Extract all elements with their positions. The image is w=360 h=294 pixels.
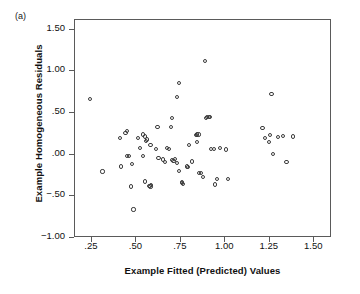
x-tick-mark <box>91 237 92 242</box>
x-tick-mark <box>135 237 136 242</box>
y-tick-mark <box>69 112 74 113</box>
x-tick-mark <box>313 237 314 242</box>
data-point <box>215 177 219 181</box>
panel-label: (a) <box>15 11 26 21</box>
y-tick-label: −.50 <box>5 188 65 199</box>
data-point <box>177 169 181 173</box>
data-point <box>224 147 228 151</box>
data-point <box>156 156 160 160</box>
data-point <box>269 92 273 96</box>
data-point <box>143 179 147 183</box>
x-axis-title: Example Fitted (Predicted) Values <box>74 265 331 276</box>
data-point <box>226 177 230 181</box>
data-point <box>148 143 152 147</box>
data-point <box>170 116 174 120</box>
data-point <box>196 132 200 136</box>
x-tick-mark <box>180 237 181 242</box>
data-point <box>136 136 140 140</box>
x-tick-mark <box>269 237 270 242</box>
data-point <box>260 126 264 130</box>
data-point <box>281 134 285 138</box>
data-point <box>145 137 149 141</box>
y-tick-label: .00 <box>5 147 65 158</box>
data-point <box>276 135 280 139</box>
y-tick-mark <box>69 237 74 238</box>
y-tick-mark <box>69 70 74 71</box>
y-tick-label: .50 <box>5 105 65 116</box>
data-point <box>155 125 159 129</box>
data-point <box>148 184 152 188</box>
data-point <box>131 207 135 211</box>
data-point <box>138 146 142 150</box>
data-point <box>163 160 167 164</box>
data-point <box>267 140 271 144</box>
y-tick-mark <box>69 195 74 196</box>
y-tick-label: −1.00 <box>5 230 65 241</box>
data-point <box>203 59 207 63</box>
y-tick-mark <box>69 154 74 155</box>
y-tick-label: 1.50 <box>5 22 65 33</box>
data-point <box>177 81 181 85</box>
data-point <box>119 164 123 168</box>
data-point <box>100 169 104 173</box>
data-point <box>212 147 216 151</box>
scatter-plot-figure: (a) Example Homogeneous Residuals −1.00−… <box>0 0 360 294</box>
y-tick-mark <box>69 29 74 30</box>
plot-area <box>74 19 331 237</box>
data-point <box>291 134 295 138</box>
data-point <box>129 184 133 188</box>
data-point <box>154 147 158 151</box>
y-tick-label: 1.00 <box>5 63 65 74</box>
data-point <box>190 159 194 163</box>
x-tick-mark <box>224 237 225 242</box>
data-point <box>167 147 171 151</box>
data-point <box>130 162 134 166</box>
